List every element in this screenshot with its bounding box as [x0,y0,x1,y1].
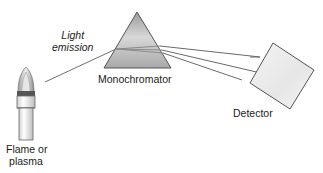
dispersed-ray-3 [163,53,242,80]
source-label-line1: Flame or [6,143,46,155]
detector-label: Detector [233,107,273,119]
detector-element [250,43,314,109]
light-emission-line2: emission [52,41,93,53]
dispersed-ray-1 [160,46,260,57]
source-label: Flame or plasma [6,143,46,167]
monochromator-label: Monochromator [98,73,172,85]
light-emission-line1: Light [52,29,93,41]
light-emission-label: Light emission [52,29,93,53]
source-label-line2: plasma [6,155,46,167]
flame-or-plasma-torch [17,67,35,140]
emission-diagram [0,0,323,173]
monochromator-prism [104,12,171,68]
